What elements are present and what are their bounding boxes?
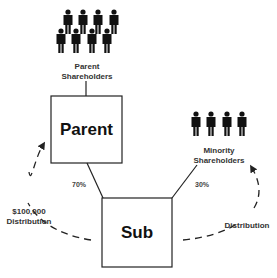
left-distribution-amount: $100,000 — [6, 207, 52, 217]
parent-shareholders-line2: Shareholders — [56, 72, 118, 82]
minority-shareholders-line1: Minority — [186, 146, 252, 156]
sub-box-label: Sub — [102, 224, 172, 242]
right-distribution-label: Distribution — [222, 221, 272, 231]
minority-shareholders-icon — [192, 111, 247, 136]
left-distribution-label: $100,000 Distribution — [6, 207, 52, 227]
parent-sub-connector — [87, 163, 103, 198]
parent-shareholders-label: Parent Shareholders — [56, 62, 118, 82]
parent-shareholders-line1: Parent — [56, 62, 118, 72]
right-distribution-arrow — [252, 168, 259, 208]
parent-box-label: Parent — [51, 121, 122, 139]
left-distribution-arrow — [29, 145, 43, 176]
minority-shareholders-label: Minority Shareholders — [186, 146, 252, 166]
parent-ownership-pct: 70% — [70, 180, 88, 190]
minority-shareholders-line2: Shareholders — [186, 156, 252, 166]
minority-ownership-pct: 30% — [193, 180, 211, 190]
left-distribution-text: Distribution — [6, 217, 52, 227]
parent-shareholders-icon — [57, 9, 119, 53]
